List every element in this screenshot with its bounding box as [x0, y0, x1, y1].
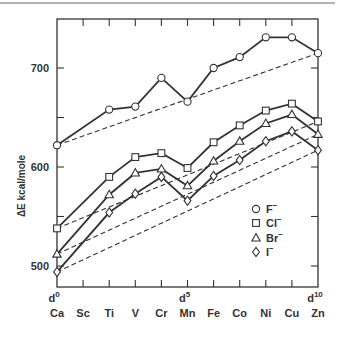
x-category-label: Fe: [207, 307, 220, 319]
x-category-label: V: [132, 307, 140, 319]
x-category-label: Co: [232, 307, 247, 319]
y-tick-label: 500: [31, 260, 49, 272]
ligand-field-energy-chart: CaScTiVCrMnFeCoNiCuZnd0d5d10 500600700 Δ…: [0, 0, 339, 340]
circle-legend-icon: [252, 205, 259, 212]
x-category-label: Cu: [285, 307, 300, 319]
d-electron-label: d0: [48, 290, 60, 304]
square-marker: [184, 165, 191, 172]
dashed-baseline: [57, 121, 318, 228]
x-category-label: Sc: [76, 307, 89, 319]
circle-marker: [132, 103, 139, 110]
x-category-label: Ni: [260, 307, 271, 319]
x-category-label: Cr: [155, 307, 168, 319]
square-marker: [289, 100, 296, 107]
legend-item: Cl−: [253, 215, 282, 229]
legend-label: Br−: [266, 230, 283, 244]
square-marker: [106, 174, 113, 181]
square-legend-icon: [253, 220, 260, 227]
y-axis-title: ΔE kcal/mole: [16, 154, 27, 217]
circle-marker: [53, 142, 60, 149]
circle-marker: [210, 64, 217, 71]
series-diamond: [54, 127, 322, 277]
legend-item: I−: [253, 244, 274, 258]
triangle-legend-icon: [252, 234, 260, 241]
d-electron-label: d10: [307, 290, 323, 304]
square-marker: [315, 118, 322, 125]
legend-item: F−: [252, 201, 277, 215]
dashed-baselines: [57, 53, 318, 272]
legend-label: Cl−: [266, 215, 282, 229]
diamond-marker: [289, 127, 296, 136]
square-marker: [236, 122, 243, 129]
x-category-label: Ti: [104, 307, 114, 319]
x-category-label: Ca: [50, 307, 65, 319]
d-electron-label: d5: [179, 290, 191, 304]
y-tick-label: 700: [31, 62, 49, 74]
axes: [57, 19, 318, 287]
legend-label: I−: [266, 244, 274, 258]
y-tick-label: 600: [31, 161, 49, 173]
square-marker: [132, 154, 139, 161]
triangle-marker: [288, 110, 296, 117]
plot-frame: [57, 19, 318, 287]
legend-label: F−: [266, 201, 278, 215]
x-axis-labels: CaScTiVCrMnFeCoNiCuZnd0d5d10: [48, 290, 325, 319]
circle-marker: [184, 98, 191, 105]
x-category-label: Mn: [180, 307, 196, 319]
x-category-label: Zn: [311, 307, 325, 319]
circle-marker: [106, 106, 113, 113]
square-marker: [262, 107, 269, 114]
legend: F−Cl−Br−I−: [252, 201, 283, 258]
square-marker: [54, 225, 61, 232]
circle-marker: [158, 74, 165, 81]
circle-marker: [288, 34, 295, 41]
square-marker: [210, 139, 217, 146]
circle-marker: [262, 34, 269, 41]
square-marker: [158, 150, 165, 157]
series-circle: [53, 34, 321, 149]
diamond-marker: [236, 155, 243, 164]
circle-marker: [314, 50, 321, 57]
series-line: [57, 37, 318, 145]
diamond-marker: [262, 137, 269, 146]
diamond-marker: [315, 146, 322, 155]
triangle-marker: [236, 137, 244, 144]
triangle-marker: [157, 165, 165, 172]
legend-item: Br−: [252, 230, 283, 244]
circle-marker: [236, 54, 243, 61]
data-series: [53, 34, 322, 277]
diamond-legend-icon: [253, 247, 260, 256]
y-axis-labels: 500600700: [31, 62, 49, 272]
